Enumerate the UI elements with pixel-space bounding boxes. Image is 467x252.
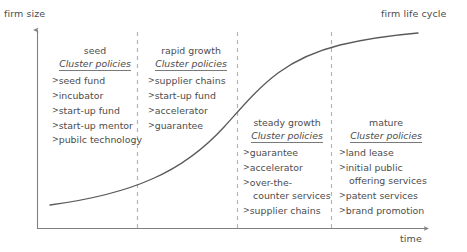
policy-text: over-the- bbox=[250, 177, 292, 188]
stage-column-steady-growth: steady growth Cluster policies >guarante… bbox=[243, 118, 331, 221]
bullet-icon: > bbox=[52, 106, 59, 115]
bullet-icon: > bbox=[339, 206, 346, 215]
stage-title-mature: mature bbox=[339, 118, 433, 127]
policy-text: guarantee bbox=[250, 147, 298, 158]
curve-label: firm life cycle bbox=[381, 8, 447, 19]
policy-item: >initial publicoffering services bbox=[339, 163, 433, 186]
policy-text: accelerator bbox=[250, 162, 303, 173]
stage-column-rapid-growth: rapid growth Cluster policies >supplier … bbox=[148, 46, 234, 135]
policy-item: >guarantee bbox=[148, 121, 234, 130]
policy-text-continued: offering services bbox=[339, 176, 433, 185]
policy-text: supplier chains bbox=[155, 75, 226, 86]
policy-item: >pubilc technology bbox=[52, 135, 138, 144]
bullet-icon: > bbox=[52, 91, 59, 100]
policy-item: >start-up fund bbox=[52, 106, 138, 115]
bullet-icon: > bbox=[243, 206, 250, 215]
policy-list-mature: >land lease >initial publicoffering serv… bbox=[339, 148, 433, 216]
policies-heading-steady-growth: Cluster policies bbox=[251, 131, 323, 142]
y-axis-label: firm size bbox=[4, 8, 45, 19]
policy-text: supplier chains bbox=[250, 205, 321, 216]
policy-item: >seed fund bbox=[52, 76, 138, 85]
policy-item: >supplier chains bbox=[243, 206, 331, 215]
bullet-icon: > bbox=[243, 163, 250, 172]
stage-title-seed: seed bbox=[52, 46, 138, 55]
policy-text: initial public bbox=[346, 162, 403, 173]
policy-item: >over-the-counter services bbox=[243, 178, 331, 201]
policy-item: >start-up mentor bbox=[52, 121, 138, 130]
stage-column-seed: seed Cluster policies >seed fund >incuba… bbox=[52, 46, 138, 150]
firm-life-cycle-diagram: firm size time firm life cycle seed Clus… bbox=[0, 0, 467, 252]
policy-text: start-up fund bbox=[59, 105, 120, 116]
policy-list-rapid-growth: >supplier chains >start-up fund >acceler… bbox=[148, 76, 234, 130]
bullet-icon: > bbox=[148, 121, 155, 130]
policies-heading-rapid-growth: Cluster policies bbox=[155, 59, 227, 70]
policy-item: >accelerator bbox=[148, 106, 234, 115]
bullet-icon: > bbox=[243, 178, 250, 187]
policy-item: >brand promotion bbox=[339, 206, 433, 215]
policy-text: land lease bbox=[346, 147, 394, 158]
bullet-icon: > bbox=[148, 106, 155, 115]
policies-heading-mature: Cluster policies bbox=[350, 131, 422, 142]
stage-title-rapid-growth: rapid growth bbox=[148, 46, 234, 55]
policy-item: >guarantee bbox=[243, 148, 331, 157]
policy-item: >land lease bbox=[339, 148, 433, 157]
policy-text: patent services bbox=[346, 190, 418, 201]
policy-text: start-up fund bbox=[155, 90, 216, 101]
bullet-icon: > bbox=[52, 135, 59, 144]
policy-text: seed fund bbox=[59, 75, 106, 86]
bullet-icon: > bbox=[339, 191, 346, 200]
policy-list-steady-growth: >guarantee >accelerator >over-the-counte… bbox=[243, 148, 331, 216]
bullet-icon: > bbox=[243, 148, 250, 157]
policy-item: >patent services bbox=[339, 191, 433, 200]
policies-heading-seed: Cluster policies bbox=[59, 59, 131, 70]
policy-text: guarantee bbox=[155, 120, 203, 131]
policy-item: >start-up fund bbox=[148, 91, 234, 100]
stage-title-steady-growth: steady growth bbox=[243, 118, 331, 127]
policy-text: brand promotion bbox=[346, 205, 425, 216]
x-axis-label: time bbox=[400, 233, 422, 244]
policy-text: accelerator bbox=[155, 105, 208, 116]
policy-text: incubator bbox=[59, 90, 104, 101]
bullet-icon: > bbox=[339, 163, 346, 172]
policy-text: pubilc technology bbox=[59, 134, 142, 145]
policy-item: >accelerator bbox=[243, 163, 331, 172]
policy-item: >supplier chains bbox=[148, 76, 234, 85]
bullet-icon: > bbox=[339, 148, 346, 157]
policy-text-continued: counter services bbox=[243, 191, 331, 200]
bullet-icon: > bbox=[52, 121, 59, 130]
policy-item: >incubator bbox=[52, 91, 138, 100]
policy-list-seed: >seed fund >incubator >start-up fund >st… bbox=[52, 76, 138, 145]
stage-column-mature: mature Cluster policies >land lease >ini… bbox=[339, 118, 433, 221]
bullet-icon: > bbox=[52, 76, 59, 85]
policy-text: start-up mentor bbox=[59, 120, 133, 131]
bullet-icon: > bbox=[148, 76, 155, 85]
bullet-icon: > bbox=[148, 91, 155, 100]
